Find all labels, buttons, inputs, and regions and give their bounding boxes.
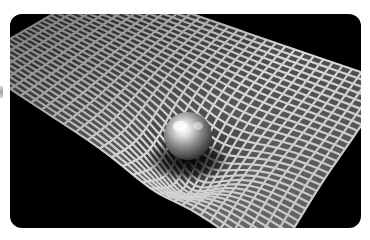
warped-grid-scene: [10, 14, 361, 228]
sphere-highlight: [173, 121, 187, 131]
left-edge-artifact: [0, 86, 3, 98]
image-frame: [10, 14, 361, 228]
sphere-highlight-secondary: [193, 122, 203, 130]
sphere: [164, 112, 212, 160]
